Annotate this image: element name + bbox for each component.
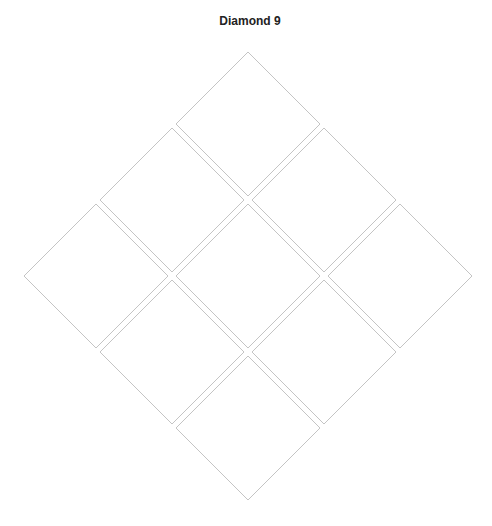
diamond-9-diagram	[0, 0, 492, 526]
diamond-grid	[24, 52, 472, 500]
